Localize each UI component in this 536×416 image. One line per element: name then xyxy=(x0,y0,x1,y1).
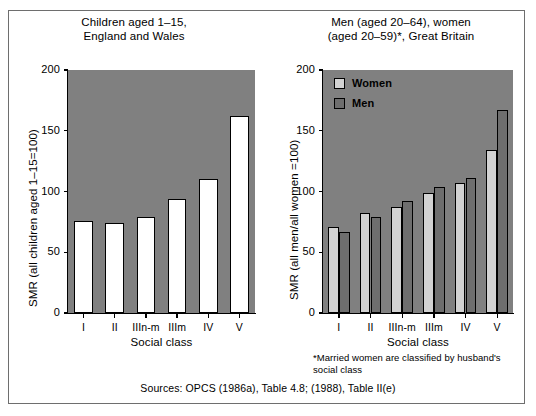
bar-children-v-children xyxy=(230,116,249,313)
x-tick-children-1 xyxy=(114,314,115,318)
legend-label-men: Men xyxy=(352,97,374,109)
bar-adults-v-men xyxy=(497,110,508,313)
y-tick-children-0 xyxy=(64,312,68,313)
legend-label-women: Women xyxy=(352,77,392,89)
bar-adults-ii-women xyxy=(360,213,371,313)
bar-children-i-children xyxy=(74,221,93,313)
y-tick-children-150 xyxy=(64,130,68,131)
bar-adults-v-women xyxy=(486,150,497,313)
y-tick-label-adults-0: 0 xyxy=(281,306,315,318)
x-tick-children-0 xyxy=(83,314,84,318)
bar-adults-ii-men xyxy=(371,217,382,313)
y-axis-label-adults: SMR (all men/all women =100) xyxy=(288,140,300,300)
y-tick-children-200 xyxy=(64,69,68,70)
x-tick-adults-2 xyxy=(402,314,403,318)
chart-title-children: Children aged 1–15, England and Wales xyxy=(0,16,268,43)
bar-children-ii-children xyxy=(105,223,124,313)
y-tick-adults-50 xyxy=(319,252,323,253)
x-tick-adults-0 xyxy=(338,314,339,318)
y-tick-adults-100 xyxy=(319,191,323,192)
legend-swatch-women xyxy=(334,78,345,89)
x-axis-line-adults xyxy=(322,313,514,314)
x-tick-adults-5 xyxy=(497,314,498,318)
x-axis-title-adults: Social class xyxy=(323,336,513,348)
y-tick-children-100 xyxy=(64,191,68,192)
x-axis-title-children: Social class xyxy=(68,336,255,348)
y-tick-adults-200 xyxy=(319,69,323,70)
x-tick-adults-4 xyxy=(465,314,466,318)
y-tick-children-50 xyxy=(64,252,68,253)
figure-root: Children aged 1–15, England and Wales SM… xyxy=(0,0,536,416)
bar-adults-iiim-men xyxy=(434,187,445,313)
footnote-married-women: *Married women are classified by husband… xyxy=(313,352,519,375)
y-tick-label-children-200: 200 xyxy=(26,63,60,75)
x-tick-children-4 xyxy=(208,314,209,318)
x-tick-children-5 xyxy=(239,314,240,318)
x-tick-adults-1 xyxy=(370,314,371,318)
bar-children-iiinm-children xyxy=(137,217,156,313)
x-tick-label-adults-5: V xyxy=(471,321,523,333)
y-tick-label-children-50: 50 xyxy=(26,245,60,257)
y-tick-label-children-150: 150 xyxy=(26,124,60,136)
bar-adults-iv-women xyxy=(455,183,466,313)
y-tick-label-adults-200: 200 xyxy=(281,63,315,75)
bar-adults-iiim-women xyxy=(423,193,434,313)
x-tick-children-3 xyxy=(176,314,177,318)
y-tick-label-adults-150: 150 xyxy=(281,124,315,136)
x-axis-line-children xyxy=(67,313,256,314)
x-tick-label-children-5: V xyxy=(213,321,265,333)
bar-children-iiim-children xyxy=(168,199,187,313)
bar-adults-iv-men xyxy=(466,178,477,313)
y-tick-label-adults-100: 100 xyxy=(281,185,315,197)
y-tick-adults-150 xyxy=(319,130,323,131)
y-tick-label-adults-50: 50 xyxy=(281,245,315,257)
bar-adults-iiinm-women xyxy=(391,207,402,313)
legend-swatch-men xyxy=(334,98,345,109)
source-note: Sources: OPCS (1986a), Table 4.8; (1988)… xyxy=(0,382,536,394)
plot-area-children xyxy=(68,70,255,313)
y-tick-label-children-100: 100 xyxy=(26,185,60,197)
x-tick-adults-3 xyxy=(433,314,434,318)
bar-children-iv-children xyxy=(199,179,218,313)
y-tick-label-children-0: 0 xyxy=(26,306,60,318)
bar-adults-iiinm-men xyxy=(402,201,413,313)
x-tick-children-2 xyxy=(145,314,146,318)
bar-adults-i-women xyxy=(328,227,339,313)
bar-adults-i-men xyxy=(339,232,350,313)
y-tick-adults-0 xyxy=(319,312,323,313)
chart-title-adults: Men (aged 20–64), women (aged 20–59)*, G… xyxy=(266,16,536,43)
y-axis-label-children: SMR (all children aged 1–15=100) xyxy=(27,129,39,307)
